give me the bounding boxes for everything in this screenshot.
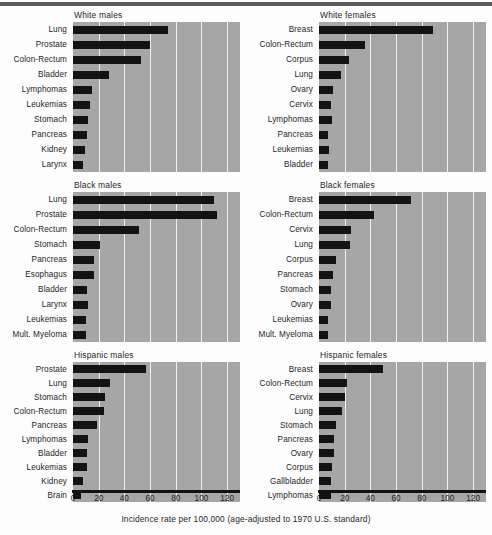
panel-white-males: White malesLungProstateColon-RectumBladd… [0,10,246,180]
bar-row [73,142,240,157]
bar-row [73,237,240,252]
x-tick-label: 100 [195,494,209,503]
category-label: Corpus [246,252,316,267]
category-label: Pancreas [0,127,70,142]
bar-row [319,237,486,252]
bar [319,407,342,415]
x-axis-right: 020406080100120 [319,490,486,504]
category-label: Lung [246,67,316,82]
panel-title: Black males [74,180,121,190]
category-label: Kidney [0,474,70,488]
category-label: Ovary [246,446,316,460]
bar [319,116,332,124]
bar-row [73,207,240,222]
bar-row [73,460,240,474]
x-tick-label: 40 [366,494,375,503]
x-tick-label: 120 [220,494,234,503]
bar-row [319,22,486,37]
bar [73,316,86,324]
bar [73,331,86,339]
bar [319,331,328,339]
panel-title: Hispanic males [74,350,134,360]
bar [319,226,351,234]
plot-wrapper: LungProstateColon-RectumBladderLymphomas… [0,22,246,172]
category-label: Leukemias [0,97,70,112]
category-label: Pancreas [0,252,70,267]
bar [319,449,334,457]
category-label: Colon-Rectum [0,52,70,67]
x-tick-label: 60 [146,494,155,503]
category-label: Stomach [0,390,70,404]
panel-grid: White malesLungProstateColon-RectumBladd… [0,10,492,490]
bar [319,41,365,49]
category-label: Pancreas [246,127,316,142]
category-label: Ovary [246,297,316,312]
bar [319,131,328,139]
plot-wrapper: BreastColon-RectumCervixLungCorpusPancre… [246,192,492,342]
bar [73,71,109,79]
axis-row: 020406080100120 020406080100120 [0,490,492,510]
category-label: Stomach [246,282,316,297]
bar [319,393,345,401]
bar-row [319,112,486,127]
category-label: Cervix [246,390,316,404]
bar [319,301,331,309]
x-tick-label: 80 [417,494,426,503]
bar [73,146,85,154]
bar-row [319,127,486,142]
category-label: Larynx [0,297,70,312]
bar [319,86,333,94]
bar [73,131,87,139]
bar-row [319,418,486,432]
bar-row [73,390,240,404]
bar-row [73,52,240,67]
bar-row [73,192,240,207]
bar [73,241,100,249]
category-labels: LungProstateColon-RectumStomachPancreasE… [0,192,70,342]
bar-row [319,97,486,112]
category-label: Esophagus [0,267,70,282]
bar [319,421,336,429]
category-label: Leukemias [246,142,316,157]
x-tick-label: 20 [94,494,103,503]
bar [73,101,90,109]
category-label: Colon-Rectum [0,404,70,418]
category-label: Stomach [0,237,70,252]
category-labels: BreastColon-RectumCorpusLungOvaryCervixL… [246,22,316,172]
bar-row [319,327,486,342]
bar [319,379,347,387]
bar-row [319,157,486,172]
bar [73,41,150,49]
category-label: Kidney [0,142,70,157]
category-labels: LungProstateColon-RectumBladderLymphomas… [0,22,70,172]
category-label: Stomach [246,418,316,432]
panel-hispanic-females: Hispanic femalesBreastColon-RectumCervix… [246,350,492,510]
bar-row [73,267,240,282]
bar-row [319,142,486,157]
bar-series [319,192,486,342]
bar-row [73,418,240,432]
bar [73,116,88,124]
bar [319,463,332,471]
panel-black-males: Black malesLungProstateColon-RectumStoma… [0,180,246,350]
plot-area [73,192,240,342]
plot-wrapper: ProstateLungStomachColon-RectumPancreasL… [0,362,246,502]
bar-row [73,37,240,52]
bar-series [319,22,486,172]
category-labels: BreastColon-RectumCervixLungCorpusPancre… [246,192,316,342]
category-label: Leukemias [246,312,316,327]
category-label: Pancreas [246,432,316,446]
x-axis-left: 020406080100120 [73,490,240,504]
category-label: Colon-Rectum [246,37,316,52]
category-label: Lung [0,192,70,207]
bar-row [73,127,240,142]
bar-row [73,404,240,418]
bar-row [319,282,486,297]
x-tick-label: 100 [441,494,455,503]
category-label: Prostate [0,207,70,222]
bar-series [73,192,240,342]
bar-row [319,362,486,376]
plot-area [319,22,486,172]
bar [73,271,94,279]
category-label: Lymphomas [0,82,70,97]
